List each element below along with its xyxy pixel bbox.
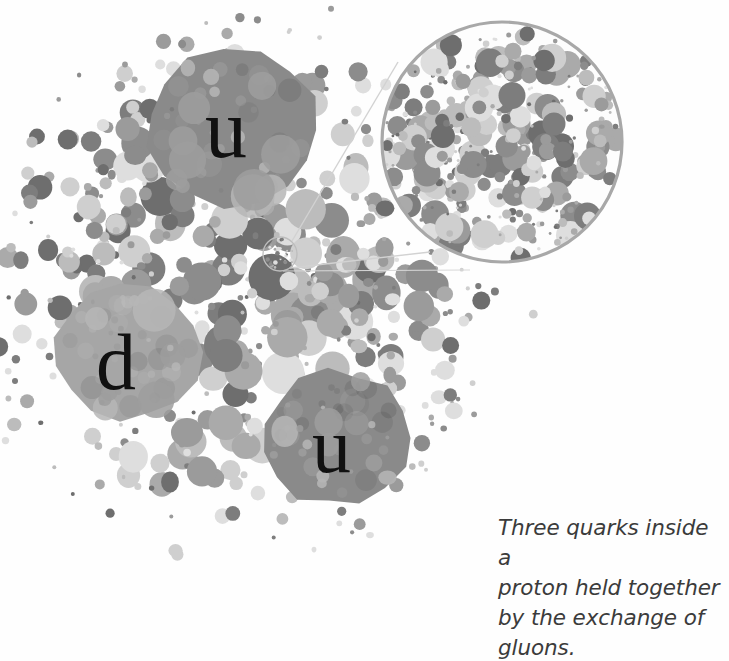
gluon-dot — [5, 396, 11, 402]
gluon-dot — [406, 260, 438, 292]
gluon-dot — [312, 547, 317, 553]
magnified-gluon-dot — [443, 80, 447, 84]
gluon-dot — [69, 254, 73, 258]
gluon-dot — [392, 286, 396, 290]
gluon-dot — [387, 351, 395, 359]
magnified-gluon-dot — [431, 206, 434, 209]
gluon-dot — [12, 210, 17, 216]
gluon-dot — [421, 327, 445, 351]
gluon-dot — [128, 241, 135, 248]
magnified-gluon-dot — [569, 140, 573, 144]
magnified-gluon-dot — [490, 150, 493, 153]
gluon-dot — [247, 418, 263, 434]
quark-texture-dot — [148, 371, 155, 378]
gluon-dot — [122, 62, 128, 68]
magnified-gluon-dot — [447, 97, 456, 106]
gluon-dot — [192, 411, 196, 415]
gluon-dot — [63, 333, 78, 348]
gluon-dot — [261, 135, 300, 174]
magnified-gluon-dot — [515, 246, 524, 255]
quark-texture-dot — [328, 384, 335, 391]
gluon-dot — [60, 177, 79, 196]
gluon-dot — [48, 298, 53, 303]
source-gluon-dot — [291, 250, 293, 252]
quark-texture-dot — [235, 95, 246, 106]
magnified-gluon-dot — [469, 145, 472, 148]
gluon-dot — [135, 443, 139, 447]
gluon-dot — [351, 308, 369, 326]
gluon-dot — [342, 257, 356, 271]
gluon-dot — [472, 292, 490, 310]
quark-texture-dot — [112, 356, 119, 363]
gluon-dot — [23, 195, 37, 209]
gluon-dot — [99, 194, 103, 198]
gluon-dot — [270, 451, 278, 459]
gluon-dot — [149, 485, 154, 490]
gluon-dot — [52, 465, 56, 469]
magnified-gluon-dot — [403, 112, 408, 117]
magnified-gluon-dot — [471, 220, 499, 248]
gluon-dot — [132, 275, 136, 279]
gluon-dot — [120, 295, 125, 300]
magnified-gluon-dot — [560, 99, 563, 102]
gluon-dot — [311, 282, 329, 300]
gluon-dot — [328, 6, 334, 12]
gluon-dot — [151, 454, 170, 473]
quark-texture-dot — [95, 374, 105, 384]
gluon-dot — [21, 289, 29, 297]
gluon-dot — [412, 331, 419, 338]
gluon-dot — [208, 303, 215, 310]
gluon-dot — [256, 343, 262, 349]
magnified-gluon-dot — [540, 134, 551, 145]
magnified-gluon-dot — [580, 61, 588, 69]
magnified-gluon-dot — [398, 131, 408, 141]
gluon-dot — [354, 318, 359, 323]
gluon-dot — [46, 235, 50, 239]
magnified-gluon-dot — [448, 241, 451, 244]
gluon-dot — [6, 243, 16, 253]
gluon-dot — [366, 532, 374, 538]
magnified-gluon-dot — [436, 68, 442, 74]
magnifier-circle — [372, 22, 628, 268]
gluon-dot — [230, 477, 243, 490]
gluon-dot — [389, 333, 398, 341]
source-gluon-dot — [273, 260, 278, 265]
gluon-dot — [287, 30, 291, 34]
magnified-gluon-dot — [425, 100, 440, 115]
gluon-dot — [373, 285, 378, 290]
source-gluon-dot — [287, 262, 291, 266]
gluon-dot — [0, 337, 8, 357]
magnified-gluon-dot — [420, 85, 434, 99]
gluon-dot — [406, 242, 410, 246]
magnified-gluon-dot — [499, 233, 502, 236]
gluon-dot — [26, 137, 37, 148]
magnified-gluon-dot — [552, 204, 555, 207]
gluon-dot — [424, 468, 428, 472]
magnified-gluon-dot — [566, 115, 573, 122]
gluon-dot — [161, 471, 179, 492]
gluon-dot — [272, 536, 276, 540]
magnified-gluon-dot — [454, 150, 457, 153]
gluon-dot — [91, 300, 95, 305]
magnified-gluon-dot — [457, 164, 467, 174]
gluon-dot — [244, 414, 251, 421]
gluon-dot — [210, 339, 243, 372]
magnified-gluon-dot — [528, 88, 531, 91]
gluon-dot — [120, 260, 124, 264]
magnified-gluon-dot — [574, 201, 578, 205]
magnified-gluon-dot — [568, 85, 571, 88]
gluon-dot — [342, 119, 349, 125]
gluon-dot — [7, 295, 11, 299]
magnified-gluon-dot — [513, 180, 520, 187]
magnified-gluon-dot — [579, 70, 595, 86]
magnified-gluon-dot — [527, 155, 542, 170]
magnified-gluon-dot — [489, 196, 497, 204]
magnified-gluon-dot — [521, 146, 526, 151]
gluon-dot — [470, 380, 476, 386]
magnified-gluon-dot — [447, 158, 452, 163]
gluon-dot — [324, 87, 329, 91]
gluon-dot — [119, 423, 123, 427]
gluon-dot — [351, 372, 370, 391]
gluon-dot — [245, 277, 249, 281]
gluon-dot — [339, 163, 369, 194]
